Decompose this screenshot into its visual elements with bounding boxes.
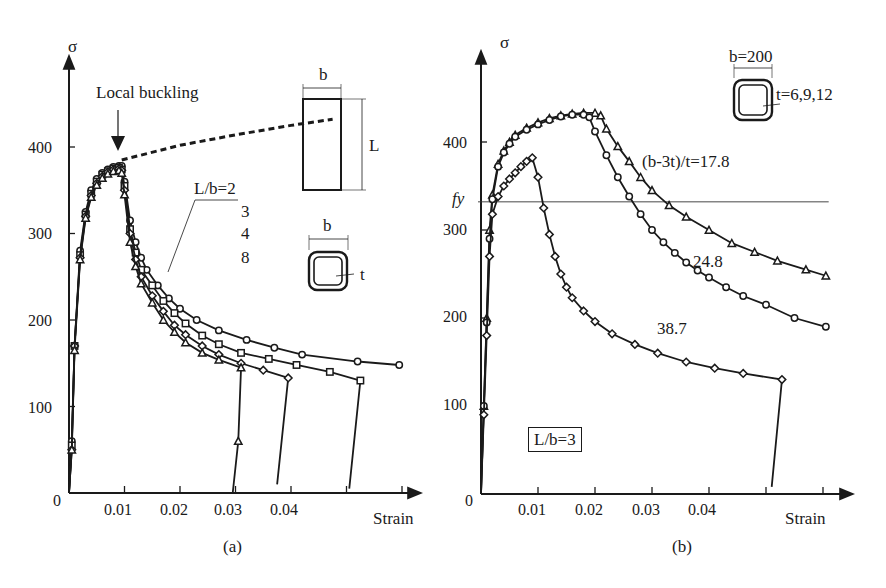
chart-a: [68, 57, 420, 493]
specimen-rect-icon: [303, 84, 366, 190]
legend-item-3: 3: [241, 203, 250, 220]
marker-square-icon: [160, 298, 166, 304]
marker-diamond-icon: [778, 376, 786, 384]
marker-square-icon: [266, 356, 272, 362]
marker-triangle-icon: [774, 257, 781, 264]
legend-title-a: L/b=2: [194, 180, 236, 197]
label-24-8: 24.8: [693, 253, 723, 270]
legend-item-8: 8: [241, 249, 250, 266]
marker-circle-icon: [299, 351, 305, 357]
marker-triangle-icon: [597, 112, 604, 119]
marker-square-icon: [199, 332, 205, 338]
marker-circle-icon: [569, 112, 575, 118]
label-17-8: (b-3t)/t=17.8: [642, 153, 730, 170]
ytick-0-a: 0: [53, 493, 61, 509]
legend-item-4: 4: [241, 225, 250, 242]
dashed-reference-curve: [122, 119, 333, 160]
marker-diamond-icon: [486, 253, 494, 261]
marker-circle-icon: [660, 239, 666, 245]
legend-leader-line: [168, 200, 195, 272]
marker-square-icon: [327, 369, 333, 375]
series-line: [69, 168, 360, 493]
y-axis-label-a: σ: [68, 38, 77, 55]
marker-circle-icon: [271, 344, 277, 350]
marker-circle-icon: [740, 293, 746, 299]
ytick-0-b: 0: [465, 493, 473, 509]
marker-circle-icon: [216, 327, 222, 333]
xtick-003-a: 0.03: [214, 502, 242, 518]
marker-circle-icon: [396, 362, 402, 368]
marker-circle-icon: [523, 126, 529, 132]
ytick-400-b: 400: [443, 135, 467, 151]
marker-circle-icon: [637, 211, 643, 217]
marker-circle-icon: [672, 250, 678, 256]
marker-square-icon: [216, 341, 222, 347]
marker-diamond-icon: [631, 341, 639, 349]
marker-circle-icon: [243, 337, 249, 343]
marker-diamond-icon: [540, 204, 548, 212]
inset-section-b-label-a: b: [323, 217, 332, 234]
x-axis-label-b: Strain: [785, 510, 826, 527]
marker-circle-icon: [506, 141, 512, 147]
caption-a: (a): [223, 538, 242, 555]
inset-b-label-a: b: [319, 66, 328, 83]
xtick-004-b: 0.04: [688, 502, 716, 518]
inset-t-label-b: t=6,9,12: [776, 86, 833, 103]
marker-diamond-icon: [654, 349, 662, 357]
marker-diamond-icon: [546, 231, 554, 239]
marker-square-icon: [357, 377, 363, 383]
marker-circle-icon: [546, 117, 552, 123]
marker-circle-icon: [683, 259, 689, 265]
marker-diamond-icon: [284, 374, 292, 382]
inset-b-label-b: b=200: [729, 48, 773, 65]
marker-diamond-icon: [739, 370, 747, 378]
marker-circle-icon: [791, 315, 797, 321]
marker-triangle-icon: [603, 125, 610, 132]
marker-circle-icon: [535, 121, 541, 127]
marker-circle-icon: [649, 227, 655, 233]
marker-diamond-icon: [534, 173, 542, 181]
label-38-7: 38.7: [657, 320, 687, 337]
marker-square-icon: [293, 362, 299, 368]
marker-circle-icon: [615, 174, 621, 180]
marker-diamond-icon: [259, 366, 267, 374]
ytick-100-a: 100: [28, 400, 52, 416]
marker-triangle-icon: [132, 263, 139, 270]
marker-triangle-icon: [728, 240, 735, 247]
x-axis-label-a: Strain: [373, 510, 414, 527]
local-buckling-label: Local buckling: [96, 84, 198, 101]
ytick-300-b: 300: [443, 222, 467, 238]
ytick-400-a: 400: [28, 140, 52, 156]
marker-square-icon: [238, 350, 244, 356]
marker-diamond-icon: [711, 364, 719, 372]
ytick-200-a: 200: [28, 313, 52, 329]
marker-circle-icon: [626, 193, 632, 199]
marker-circle-icon: [723, 284, 729, 290]
marker-circle-icon: [603, 152, 609, 158]
marker-diamond-icon: [551, 253, 559, 261]
marker-circle-icon: [823, 324, 829, 330]
section-square-icon-b: [734, 64, 780, 120]
fy-label: fy: [452, 190, 464, 207]
marker-circle-icon: [592, 128, 598, 134]
marker-triangle-icon: [215, 356, 222, 363]
xtick-001-b: 0.01: [518, 502, 546, 518]
series-line: [481, 158, 782, 494]
inset-section-t-label-a: t: [360, 266, 365, 283]
marker-diamond-icon: [483, 332, 491, 340]
marker-circle-icon: [501, 149, 507, 155]
marker-square-icon: [149, 282, 155, 288]
marker-circle-icon: [586, 114, 592, 120]
series-38-7: [480, 154, 786, 494]
marker-triangle-icon: [705, 226, 712, 233]
marker-triangle-icon: [751, 248, 758, 255]
xtick-002-b: 0.02: [575, 502, 603, 518]
series-l-b-4: [68, 165, 292, 493]
marker-square-icon: [182, 320, 188, 326]
marker-diamond-icon: [563, 283, 571, 291]
caption-b: (b): [672, 538, 692, 555]
local-buckling-arrow-icon: [111, 110, 125, 151]
marker-circle-icon: [495, 163, 501, 169]
section-square-icon-a: [309, 235, 354, 290]
marker-diamond-icon: [682, 358, 690, 366]
